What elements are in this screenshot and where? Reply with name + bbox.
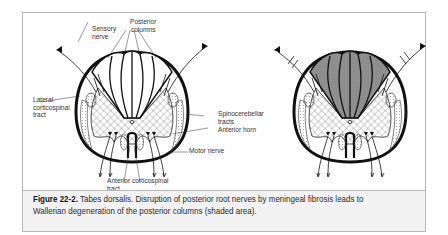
figure-caption: Figure 22-2. Tabes dorsalis. Disruption …: [33, 193, 396, 217]
label-posterior-columns: Posterior columns: [130, 18, 156, 33]
caption-text: Tabes dorsalis. Disruption of posterior …: [33, 194, 363, 216]
label-sensory-nerve: Sensory nerve: [92, 25, 116, 40]
label-lateral-corticospinal-tract: Lateral corticospinal tract: [33, 96, 70, 119]
label-anterior-horn: Anterior horn: [218, 126, 256, 134]
label-spinocerebellar-tracts: Spinocerebellar tracts: [218, 110, 264, 125]
tabes-cord: [274, 43, 426, 177]
label-motor-nerve: Motor nerve: [189, 147, 224, 155]
figure-number: Figure 22-2.: [33, 194, 78, 204]
